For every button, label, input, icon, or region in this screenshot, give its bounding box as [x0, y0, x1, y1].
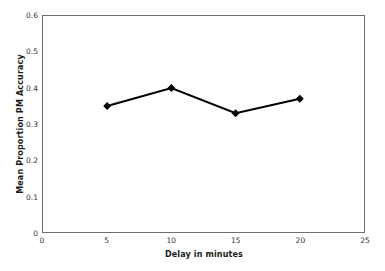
y-tick-label: 0: [33, 229, 38, 238]
x-tick-label: 20: [296, 236, 306, 245]
data-series-line: [43, 16, 364, 232]
x-tick-label: 10: [166, 236, 176, 245]
y-tick-label: 0.2: [26, 156, 38, 165]
y-tick-label: 0.1: [26, 192, 38, 201]
data-point-marker: [103, 102, 111, 110]
plot-area: [42, 15, 365, 233]
x-tick-label: 5: [104, 236, 109, 245]
x-tick-label: 15: [231, 236, 241, 245]
series-polyline: [107, 88, 300, 113]
y-tick-label: 0.6: [26, 11, 38, 20]
y-tick-label: 0.4: [26, 83, 38, 92]
data-point-marker: [232, 109, 240, 117]
x-axis-title: Delay in minutes: [42, 250, 366, 259]
x-tick-label: 25: [360, 236, 370, 245]
chart-container: Mean Proportion PM Accuracy 00.10.20.30.…: [0, 0, 385, 271]
data-point-marker: [296, 95, 304, 103]
y-tick-label: 0.3: [26, 120, 38, 129]
x-tick-label: 0: [40, 236, 45, 245]
y-tick-label: 0.5: [26, 47, 38, 56]
data-point-marker: [167, 84, 175, 92]
